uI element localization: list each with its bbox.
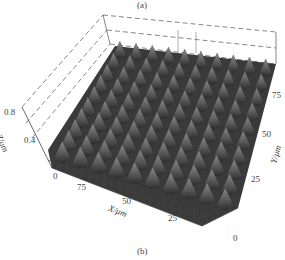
x-tick-25: 25 <box>168 214 177 223</box>
surface-plot-canvas <box>0 0 285 260</box>
top-caption: (a) <box>137 1 147 10</box>
y-tick-0: 0 <box>233 234 238 243</box>
y-tick-25: 25 <box>251 175 260 184</box>
x-tick-75: 75 <box>77 183 86 192</box>
z-tick-0.8: 0.8 <box>4 108 15 117</box>
z-tick-0.4: 0.4 <box>24 136 35 145</box>
surface-plot-figure: (a) (b) 0.8 0.4 Z/μm 0 75 50 25 X/μm 0 2… <box>0 0 285 260</box>
x-tick-50: 50 <box>122 197 131 206</box>
bottom-caption: (b) <box>137 247 148 256</box>
y-tick-50: 50 <box>262 130 271 139</box>
y-tick-75: 75 <box>272 91 281 100</box>
x-tick-0: 0 <box>53 172 58 181</box>
